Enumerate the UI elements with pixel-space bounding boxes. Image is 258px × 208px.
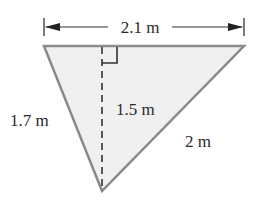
arrow-left-icon (45, 23, 60, 31)
triangle-diagram: 2.1 m 1.5 m 1.7 m 2 m (0, 0, 258, 208)
width-label: 2.1 m (121, 18, 160, 37)
right-side-label: 2 m (185, 132, 211, 151)
arrow-right-icon (228, 23, 243, 31)
left-side-label: 1.7 m (10, 111, 49, 130)
height-label: 1.5 m (116, 100, 155, 119)
